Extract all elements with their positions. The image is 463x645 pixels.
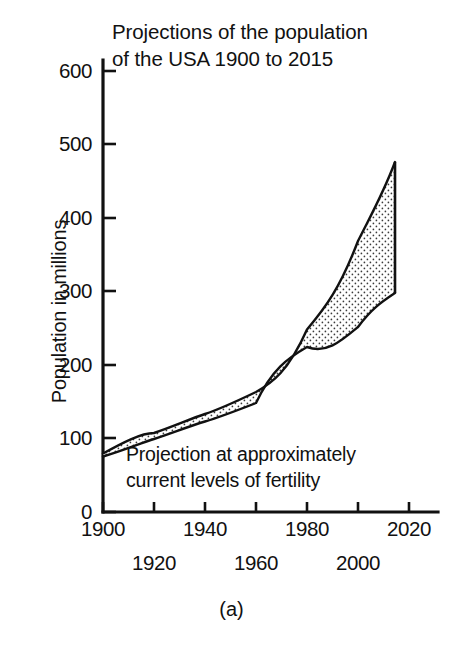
y-tick-label-300: 300 [22, 279, 92, 303]
x-tick-label-1900: 1900 [63, 517, 143, 541]
projection-band [103, 162, 395, 457]
x-tick-label-2000: 2000 [318, 551, 398, 575]
x-tick-label-1980: 1980 [267, 517, 347, 541]
y-tick-label-100: 100 [22, 426, 92, 450]
y-tick-marks [103, 71, 116, 512]
x-tick-label-1920: 1920 [114, 551, 194, 575]
y-tick-label-200: 200 [22, 353, 92, 377]
chart-title: Projections of the population of the USA… [112, 18, 442, 72]
y-tick-label-400: 400 [22, 206, 92, 230]
fertility-annotation: Projection at approximately current leve… [126, 441, 426, 493]
figure-a: Projections of the population of the USA… [0, 0, 463, 645]
y-tick-label-600: 600 [22, 59, 92, 83]
figure-caption: (a) [0, 598, 463, 621]
x-tick-label-1960: 1960 [216, 551, 296, 575]
y-tick-label-500: 500 [22, 132, 92, 156]
x-tick-label-1940: 1940 [165, 517, 245, 541]
x-tick-label-2020: 2020 [369, 517, 449, 541]
